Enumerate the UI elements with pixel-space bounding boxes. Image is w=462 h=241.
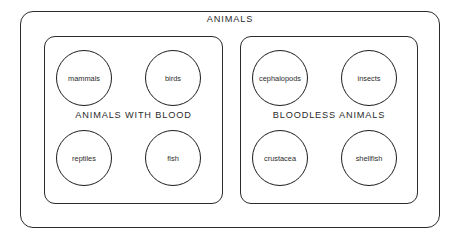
set-label-shellfish: shellfish (321, 154, 417, 163)
set-label-cephalopods: cephalopods (232, 74, 328, 83)
set-label-animals: ANIMALS (20, 14, 440, 24)
set-label-mammals: mammals (36, 74, 132, 83)
set-label-bloodless-animals: BLOODLESS ANIMALS (240, 110, 418, 120)
set-label-fish: fish (125, 154, 221, 163)
diagram-canvas: ANIMALS mammals birds ANIMALS WITH BLOOD… (0, 0, 462, 241)
set-label-animals-with-blood: ANIMALS WITH BLOOD (44, 110, 223, 120)
set-label-birds: birds (125, 74, 221, 83)
set-label-crustacea: crustacea (232, 154, 328, 163)
set-label-insects: insects (321, 74, 417, 83)
set-label-reptiles: reptiles (36, 154, 132, 163)
